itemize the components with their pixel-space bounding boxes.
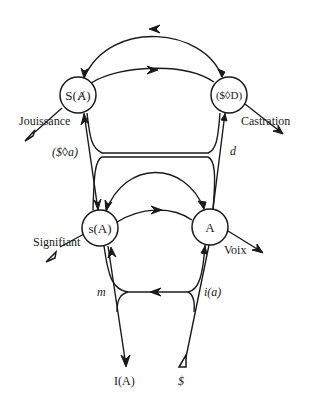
signifiant-triangle-icon xyxy=(46,252,56,262)
start-triangle-icon xyxy=(179,355,186,367)
arrow-up-icon xyxy=(108,247,116,258)
right-bottom-strand-2 xyxy=(184,245,209,367)
fantasy-label: ($◊a) xyxy=(52,145,78,159)
desire-label: d xyxy=(230,144,237,158)
ego-label: m xyxy=(97,285,106,299)
node-label: S(Ⱥ) xyxy=(65,88,90,103)
right-bottom-curve xyxy=(188,292,194,312)
node-signified: s(A) xyxy=(82,210,118,246)
left-bottom-strand xyxy=(104,246,128,292)
left-strand-inner xyxy=(87,113,220,153)
jouissance-triangle-icon xyxy=(25,130,35,141)
jouissance-label: Jouissance xyxy=(19,114,70,128)
voix-label: Voix xyxy=(224,243,246,257)
node-label: ($◊D) xyxy=(216,89,243,102)
arrow-left-icon xyxy=(149,25,160,33)
graph-of-desire: S(Ⱥ) ($◊D) s(A) A Jouissance Castration … xyxy=(0,0,309,409)
arrow-right-icon xyxy=(147,66,158,74)
arrow-down-icon xyxy=(94,199,101,210)
arrow-down-icon xyxy=(121,355,130,367)
signifiant-label: Signifiant xyxy=(33,235,81,249)
lower-arc xyxy=(106,172,204,211)
node-label: s(A) xyxy=(88,221,111,236)
castration-label: Castration xyxy=(241,114,290,128)
arrow-tail-icon xyxy=(201,246,207,254)
left-strand-outer xyxy=(84,113,98,210)
arrow-tail-icon xyxy=(221,114,227,121)
left-bottom-curve xyxy=(117,292,128,312)
arrow-tail-icon xyxy=(198,201,206,209)
node-label: A xyxy=(205,220,215,235)
node-other: A xyxy=(192,209,228,245)
node-drive: ($◊D) xyxy=(211,77,247,113)
ego-ideal-label: I(A) xyxy=(114,374,135,388)
arrow-tail-icon xyxy=(218,69,225,77)
ego-image-label: i(a) xyxy=(204,285,221,299)
node-s-barred-a: S(Ⱥ) xyxy=(60,77,96,113)
barred-subject-label: $ xyxy=(178,374,184,388)
arrow-down-right-icon xyxy=(252,244,263,253)
